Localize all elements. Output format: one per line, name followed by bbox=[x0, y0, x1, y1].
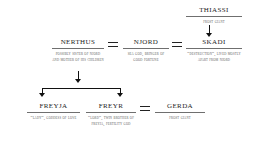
marriage-symbol-njord-skadi bbox=[172, 42, 182, 47]
node-thiassi-description: Frost giant bbox=[186, 19, 242, 26]
marriage-symbol-nerthus-njord bbox=[108, 42, 118, 47]
node-freyr-description: “Lord”, twin brother of Freyja, fertilit… bbox=[86, 115, 136, 128]
family-tree-diagram: Thiassi Frost giant Nerthus Possibly sis… bbox=[0, 0, 257, 144]
node-njord-rule bbox=[123, 48, 169, 49]
node-skadi-name: Skadi bbox=[186, 37, 242, 47]
connector-parents-stem-arrowhead bbox=[75, 79, 81, 83]
node-nerthus-description: Possibly sister of Njord and mother of h… bbox=[52, 51, 104, 64]
node-gerda: Gerda Frost giant bbox=[155, 101, 205, 121]
node-nerthus-name: Nerthus bbox=[52, 37, 104, 47]
node-freyja-name: Freyja bbox=[27, 101, 80, 111]
node-njord-description: Sea god, bringer of good fortune bbox=[123, 51, 169, 64]
marriage-symbol-freyr-gerda bbox=[140, 106, 150, 111]
node-skadi-description: “Destruction”, lived mostly apart from N… bbox=[186, 51, 242, 64]
node-gerda-rule bbox=[155, 112, 205, 113]
node-thiassi: Thiassi Frost giant bbox=[186, 5, 242, 25]
node-nerthus: Nerthus Possibly sister of Njord and mot… bbox=[52, 37, 104, 64]
connector-to-freyr-arrowhead bbox=[117, 93, 123, 97]
node-freyr: Freyr “Lord”, twin brother of Freyja, fe… bbox=[86, 101, 136, 128]
node-freyja-description: “Lady”, goddess of love bbox=[27, 115, 80, 122]
connector-to-freyja-arrowhead bbox=[39, 93, 45, 97]
node-thiassi-name: Thiassi bbox=[186, 5, 242, 15]
node-gerda-name: Gerda bbox=[155, 101, 205, 111]
node-freyja: Freyja “Lady”, goddess of love bbox=[27, 101, 80, 121]
node-freyja-rule bbox=[27, 112, 80, 113]
node-gerda-description: Frost giant bbox=[155, 115, 205, 122]
node-njord-name: Njord bbox=[123, 37, 169, 47]
node-freyr-name: Freyr bbox=[86, 101, 136, 111]
node-nerthus-rule bbox=[52, 48, 104, 49]
node-skadi: Skadi “Destruction”, lived mostly apart … bbox=[186, 37, 242, 64]
node-njord: Njord Sea god, bringer of good fortune bbox=[123, 37, 169, 64]
node-freyr-rule bbox=[86, 112, 136, 113]
connector-sibling-bar bbox=[42, 88, 120, 89]
node-skadi-rule bbox=[186, 48, 242, 49]
node-thiassi-rule bbox=[186, 16, 242, 17]
